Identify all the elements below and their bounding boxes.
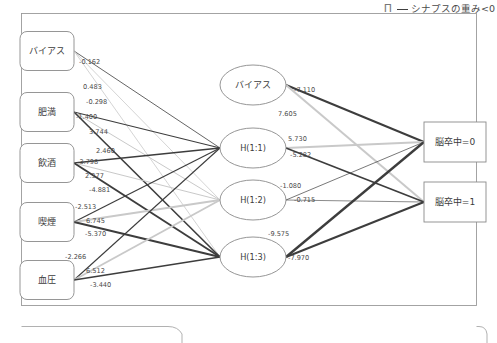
node-label-h12: H(1:2) [240, 195, 266, 205]
input-weight-label-0: -0.162 [79, 58, 100, 66]
node-label-in_smoking: 喫煙 [38, 216, 56, 227]
node-h11[interactable]: H(1:1) [220, 128, 286, 168]
node-out1[interactable]: 脳卒中=1 [424, 182, 486, 222]
node-h_bias[interactable]: バイアス [220, 65, 286, 105]
node-in_smoking[interactable]: 喫煙 [20, 203, 74, 242]
network-diagram-panel: Π シナプスの重み<0 バイアス肥満飲酒喫煙血圧バイアスH(1:1)H(1:2)… [0, 0, 497, 343]
input-weight-label-10: 6.745 [86, 217, 105, 225]
node-out0[interactable]: 脳卒中=0 [424, 122, 486, 162]
input-weight-label-7: 2.377 [85, 172, 104, 180]
hidden-weight-label-6: -9.575 [268, 230, 289, 238]
node-h12[interactable]: H(1:2) [220, 180, 286, 220]
input-weight-label-8: -4.881 [89, 186, 110, 194]
input-weight-label-13: 6.512 [86, 267, 105, 275]
node-label-h_bias: バイアス [235, 80, 271, 90]
node-label-in_bp: 血圧 [38, 274, 56, 285]
hidden-weight-label-0: -7.110 [294, 86, 315, 94]
edge-in_alcohol-to-h12 [74, 163, 220, 200]
network-svg: バイアス肥満飲酒喫煙血圧バイアスH(1:1)H(1:2)H(1:3)脳卒中=0脳… [0, 0, 497, 343]
node-in_bias[interactable]: バイアス [20, 32, 74, 71]
input-weight-label-11: -5.370 [85, 230, 106, 238]
input-weight-label-9: -2.513 [75, 203, 96, 211]
input-weight-label-12: -2.266 [65, 253, 86, 261]
input-weight-label-3: -1.400 [76, 113, 97, 121]
node-in_bp[interactable]: 血圧 [20, 261, 74, 300]
node-label-in_obesity: 肥満 [38, 107, 56, 117]
input-weight-label-2: -0.298 [86, 98, 107, 106]
input-weight-label-6: -3.798 [77, 158, 98, 166]
node-in_obesity[interactable]: 肥満 [20, 93, 74, 132]
hidden-weight-label-4: -1.080 [280, 182, 301, 190]
node-label-out0: 脳卒中=0 [435, 136, 476, 147]
input-weight-label-14: -3.440 [90, 281, 111, 289]
node-label-out1: 脳卒中=1 [435, 196, 475, 207]
input-weight-label-5: 2.460 [96, 147, 115, 155]
bottom-panel-outline [22, 327, 488, 343]
node-label-in_bias: バイアス [29, 46, 65, 56]
hidden-weight-label-3: -5.282 [290, 151, 311, 159]
node-label-h11: H(1:1) [240, 143, 266, 153]
input-weight-label-1: 0.483 [83, 83, 102, 91]
hidden-weight-label-5: -0.715 [294, 196, 315, 204]
hidden-weight-label-1: 7.605 [278, 110, 297, 118]
node-label-h13: H(1:3) [240, 252, 266, 262]
hidden-weight-label-7: -7.970 [288, 254, 309, 262]
input-weight-label-4: 3.744 [89, 128, 108, 136]
hidden-weight-label-2: 5.730 [288, 135, 307, 143]
node-in_alcohol[interactable]: 飲酒 [20, 144, 74, 183]
node-h13[interactable]: H(1:3) [220, 237, 286, 277]
edge-h13-to-out1 [286, 202, 424, 257]
node-label-in_alcohol: 飲酒 [38, 157, 56, 168]
